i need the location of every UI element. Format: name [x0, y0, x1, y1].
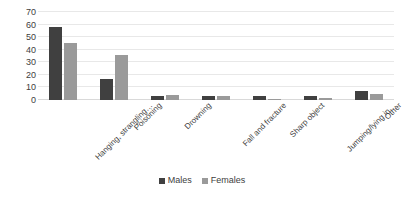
x-axis-category-label: Hanging, strangling… — [94, 101, 155, 162]
legend-swatch-icon — [159, 178, 165, 184]
bar-males[interactable] — [202, 96, 215, 100]
bar-females[interactable] — [166, 95, 179, 100]
bar-group — [202, 12, 230, 100]
y-axis-tick-label: 10 — [26, 83, 36, 92]
bar-females[interactable] — [64, 43, 77, 100]
legend-label: Females — [211, 176, 246, 185]
bar-group — [151, 12, 179, 100]
bar-females[interactable] — [319, 98, 332, 101]
bar-males[interactable] — [355, 91, 368, 100]
y-axis-tick-label: 50 — [26, 33, 36, 42]
bar-group — [100, 12, 128, 100]
bar-males[interactable] — [304, 96, 317, 100]
bar-group — [49, 12, 77, 100]
y-axis-tick-label: 30 — [26, 58, 36, 67]
y-axis-tick-label: 70 — [26, 8, 36, 17]
bar-females[interactable] — [115, 55, 128, 100]
x-axis-category-label: Sharp object — [288, 101, 326, 139]
y-axis-tick-label: 20 — [26, 70, 36, 79]
legend-item-females[interactable]: Females — [202, 176, 246, 185]
x-axis-category-label: Other — [382, 101, 403, 122]
chart-legend: MalesFemales — [0, 176, 404, 185]
bar-males[interactable] — [151, 96, 164, 100]
plot-area — [38, 12, 394, 100]
y-axis-tick-labels: 010203040506070 — [14, 12, 36, 100]
bar-females[interactable] — [268, 99, 281, 100]
bar-group — [253, 12, 281, 100]
y-axis-tick-label: 60 — [26, 20, 36, 29]
bar-males[interactable] — [100, 79, 113, 100]
x-axis-category-label: Drowning — [183, 101, 213, 131]
bar-group — [355, 12, 383, 100]
bar-females[interactable] — [217, 96, 230, 100]
bar-males[interactable] — [253, 96, 266, 100]
legend-label: Males — [168, 176, 192, 185]
y-axis-tick-label: 0 — [31, 96, 36, 105]
bar-chart: 010203040506070 Hanging, strangling…Pois… — [0, 0, 404, 202]
legend-item-males[interactable]: Males — [159, 176, 192, 185]
y-axis-tick-label: 40 — [26, 45, 36, 54]
bar-females[interactable] — [370, 94, 383, 100]
x-axis-category-labels: Hanging, strangling…PoisoningDrowningFal… — [38, 101, 394, 165]
x-axis-category-label: Fall and fracture — [241, 101, 288, 148]
legend-swatch-icon — [202, 178, 208, 184]
bar-males[interactable] — [49, 27, 62, 100]
bar-group — [304, 12, 332, 100]
bars-layer — [38, 12, 394, 100]
